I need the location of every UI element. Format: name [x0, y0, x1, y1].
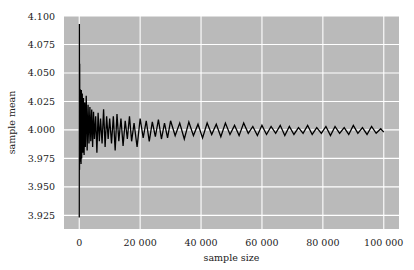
x-tick-labels: 020 00040 00060 00080 000100 000: [76, 237, 403, 248]
x-tick-label: 0: [76, 237, 82, 248]
x-tick-label: 20 000: [124, 237, 157, 248]
y-tick-label: 4.000: [28, 124, 55, 135]
y-tick-label: 3.975: [28, 153, 55, 164]
x-tick-label: 100 000: [364, 237, 403, 248]
y-tick-label: 3.925: [28, 210, 55, 221]
y-tick-label: 4.025: [28, 96, 55, 107]
x-axis-label: sample size: [204, 252, 260, 263]
chart: 020 00040 00060 00080 000100 000 3.9253.…: [0, 0, 414, 270]
y-axis-label: sample mean: [6, 91, 17, 155]
y-tick-label: 4.050: [28, 67, 55, 78]
y-tick-label: 4.100: [28, 11, 55, 22]
x-tick-label: 80 000: [306, 237, 339, 248]
x-tick-label: 60 000: [245, 237, 278, 248]
y-tick-label: 3.950: [28, 181, 55, 192]
x-tick-label: 40 000: [184, 237, 217, 248]
y-tick-labels: 3.9253.9503.9754.0004.0254.0504.0754.100: [28, 11, 55, 221]
y-tick-label: 4.075: [28, 39, 55, 50]
